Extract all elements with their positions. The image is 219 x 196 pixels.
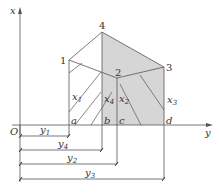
vertical-axis-label: x xyxy=(10,5,16,16)
origin-label: O xyxy=(10,126,18,137)
base-c-label: c xyxy=(119,115,125,126)
point-1-label: 1 xyxy=(60,55,66,66)
point-3-label: 3 xyxy=(166,62,172,73)
shaded-region xyxy=(102,32,164,125)
dim-y2-label: y2 xyxy=(66,152,78,165)
vertical-axis-arrow xyxy=(18,7,22,14)
base-b-label: b xyxy=(104,115,110,126)
point-2-label: 2 xyxy=(115,67,121,78)
trapezoid-area-diagram: x y O 1 2 3 4 a b c d x1 x4 x2 x3 y1 y4 … xyxy=(0,0,219,196)
base-d-label: d xyxy=(166,115,172,126)
horizontal-axis-label: y xyxy=(204,127,211,138)
height-x1-label: x1 xyxy=(72,91,82,104)
dim-y1-label: y1 xyxy=(39,124,50,137)
point-4-label: 4 xyxy=(99,20,105,31)
height-x3-label: x3 xyxy=(167,94,178,107)
base-a-label: a xyxy=(71,115,77,126)
dim-y3-label: y3 xyxy=(84,167,96,180)
dim-y4-label: y4 xyxy=(57,138,68,151)
